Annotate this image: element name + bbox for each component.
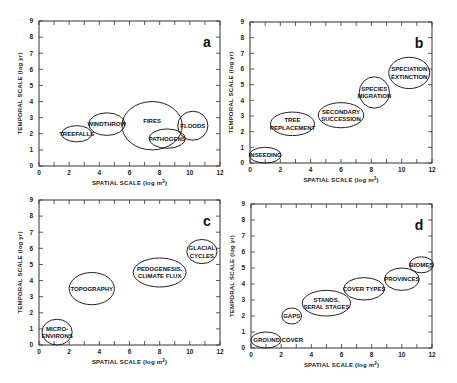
ellipse-label: FIRES [143, 118, 161, 124]
x-tick-label: 4 [310, 351, 314, 358]
ellipse-label: PEDOGENESIS, [137, 266, 183, 272]
y-tick-label: 2 [29, 130, 33, 137]
scale-ellipse: WINDTHROW [88, 113, 127, 136]
y-tick-label: 2 [29, 309, 33, 316]
x-axis-label: SPATIAL SCALE (log m2) [92, 358, 167, 366]
y-tick-label: 0 [241, 344, 245, 351]
x-tick-label: 6 [128, 169, 132, 176]
x-tick-label: 10 [186, 169, 194, 176]
ellipse-label: SPECIES [361, 86, 387, 92]
ellipse-label: WINDTHROW [88, 121, 127, 127]
ellipse-label: GLACIAL [189, 245, 216, 251]
x-tick-label: 6 [340, 351, 344, 358]
scale-ellipse: FIRES [122, 102, 182, 150]
ellipse-label: GROUND COVER [253, 337, 303, 343]
y-tick-label: 0 [29, 162, 33, 169]
x-tick-label: 4 [98, 169, 102, 176]
x-tick-label: 10 [398, 351, 406, 358]
y-tick-label: 0 [29, 341, 33, 348]
y-tick-label: 6 [241, 248, 245, 255]
x-tick-label: 8 [370, 351, 374, 358]
y-tick-label: 1 [29, 325, 33, 332]
y-tick-label: 6 [240, 65, 244, 72]
y-tick-label: 8 [241, 216, 245, 223]
ellipse-outline [122, 102, 182, 150]
panel-letter: d [415, 217, 424, 233]
ellipse-label: REPLACEMENT [270, 125, 316, 131]
panel-c: 0246810120123456789SPATIAL SCALE (log m2… [17, 196, 224, 365]
ellipse-label: BIOMES [410, 262, 434, 268]
scale-ellipse: COVER TYPES [343, 278, 386, 300]
y-axis-label: TEMPORAL SCALE (log yr) [228, 51, 234, 133]
y-tick-label: 3 [29, 114, 33, 121]
y-tick-label: 1 [240, 144, 244, 151]
ellipse-label: INSEEDING [249, 152, 282, 158]
ellipse-label: FLOODS [180, 123, 205, 129]
panel-letter: a [203, 34, 211, 50]
scale-ellipse: SECONDARYSUCCESSION [318, 103, 364, 128]
x-axis-label: SPATIAL SCALE (log m2) [92, 179, 167, 187]
scale-ellipse: TREEFALLS [59, 126, 94, 142]
y-axis-label: TEMPORAL SCALE (log yr) [17, 231, 23, 313]
scale-ellipse: GROUND COVER [251, 332, 304, 348]
y-tick-label: 7 [240, 50, 244, 57]
scale-ellipse: TREEREPLACEMENT [270, 112, 316, 136]
ellipse-label: CLIMATE FLUX [138, 273, 182, 279]
plot-frame [39, 200, 220, 345]
x-tick-label: 12 [428, 166, 436, 173]
x-tick-label: 6 [128, 348, 132, 355]
y-tick-label: 3 [240, 112, 244, 119]
x-tick-label: 2 [67, 348, 71, 355]
x-tick-label: 10 [186, 348, 194, 355]
y-tick-label: 4 [29, 277, 33, 284]
x-tick-label: 10 [398, 166, 406, 173]
panel-a: 0246810120123456789SPATIAL SCALE (log m2… [17, 17, 224, 186]
ellipse-label: PATHOGENS [149, 136, 186, 142]
y-tick-label: 4 [240, 97, 244, 104]
panel-d: 0246810120123456789SPATIAL SCALE (log m2… [229, 200, 436, 368]
y-tick-label: 2 [240, 128, 244, 135]
x-tick-label: 8 [158, 169, 162, 176]
scale-ellipse: GLACIALCYCLES [187, 239, 217, 263]
ellipse-label: EXTINCTION [391, 74, 427, 80]
panel-letter: c [203, 213, 211, 229]
x-tick-label: 0 [248, 166, 252, 173]
y-tick-label: 9 [240, 18, 244, 25]
y-tick-label: 8 [240, 34, 244, 41]
x-tick-label: 0 [37, 348, 41, 355]
x-axis-label: SPATIAL SCALE (log m2) [304, 361, 379, 369]
y-tick-label: 1 [241, 328, 245, 335]
y-tick-label: 4 [241, 280, 245, 287]
y-tick-label: 9 [29, 17, 33, 24]
scale-ellipse: GAPS [282, 308, 302, 324]
x-tick-label: 2 [67, 169, 71, 176]
x-tick-label: 12 [216, 169, 224, 176]
figure-canvas: 0246810120123456789SPATIAL SCALE (log m2… [0, 0, 457, 383]
y-tick-label: 7 [29, 50, 33, 57]
ellipse-label: GAPS [283, 313, 300, 319]
y-tick-label: 9 [29, 196, 33, 203]
x-tick-label: 2 [279, 166, 283, 173]
x-tick-label: 0 [37, 169, 41, 176]
y-tick-label: 3 [29, 293, 33, 300]
ellipse-label: TREE [284, 117, 300, 123]
ellipse-label: TOPOGRAPHY [71, 286, 114, 292]
y-tick-label: 8 [29, 33, 33, 40]
y-axis-label: TEMPORAL SCALE (log yr) [229, 235, 235, 317]
x-axis-label: SPATIAL SCALE (log m2) [303, 176, 378, 184]
x-tick-label: 4 [98, 348, 102, 355]
x-tick-label: 12 [428, 351, 436, 358]
panel-b: 0246810120123456789SPATIAL SCALE (log m2… [228, 18, 436, 183]
y-tick-label: 4 [29, 98, 33, 105]
ellipse-label: SPECIATION [391, 66, 427, 72]
scale-ellipse: FLOODS [178, 111, 208, 140]
scale-ellipse: STANDS,SERAL STAGES [302, 290, 350, 316]
scale-ellipse: BIOMES [409, 257, 433, 273]
ellipse-label: SUCCESSION [321, 116, 361, 122]
y-tick-label: 0 [240, 159, 244, 166]
x-tick-label: 4 [309, 166, 313, 173]
x-tick-label: 2 [279, 351, 283, 358]
y-tick-label: 5 [241, 264, 245, 271]
scale-ellipse: PATHOGENS [149, 129, 186, 148]
plot-frame [39, 21, 220, 166]
